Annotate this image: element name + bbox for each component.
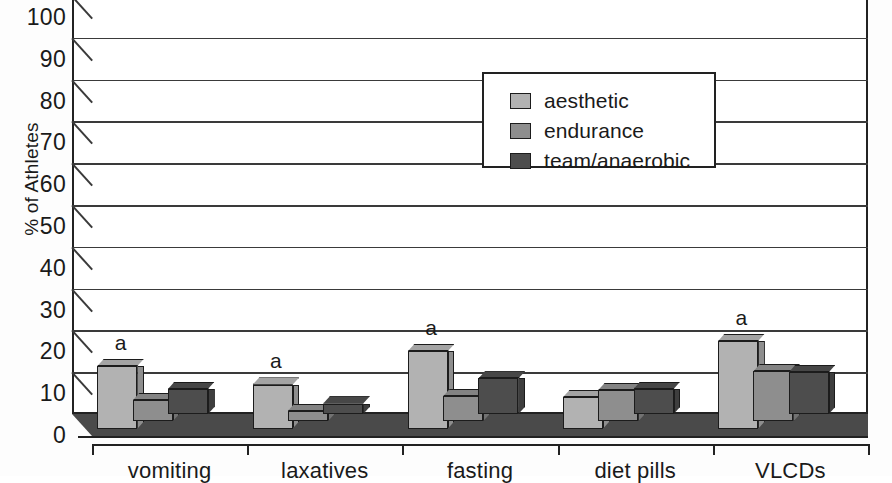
- bar-front-face: [718, 341, 758, 429]
- bar-front-face: [634, 389, 674, 414]
- bar: [753, 371, 793, 421]
- annotation-label: a: [726, 307, 756, 328]
- bar: [168, 389, 208, 414]
- x-axis-tick-mark: [558, 444, 560, 455]
- bar: [253, 385, 293, 429]
- bar-front-face: [288, 411, 328, 421]
- legend-item[interactable]: endurance: [510, 120, 644, 141]
- y-axis-tick-mark: [78, 436, 93, 438]
- plot-floor-front-edge: [92, 436, 868, 438]
- bar-top-face: [253, 377, 300, 384]
- bar-top-face: [718, 334, 765, 341]
- bar-top-face: [478, 371, 525, 378]
- annotation-label: a: [261, 350, 291, 371]
- legend-swatch-icon: [510, 153, 531, 169]
- y-axis-tick-label: 50: [8, 215, 66, 238]
- y-axis-tick-label: 40: [8, 257, 66, 280]
- annotation-label: a: [106, 332, 136, 353]
- bar-top-face: [408, 344, 455, 351]
- bar-front-face: [598, 390, 638, 421]
- bar-top-face: [789, 365, 836, 372]
- bar: [288, 411, 328, 421]
- bar-front-face: [97, 366, 137, 429]
- bar-top-face: [168, 382, 215, 389]
- bar: [408, 351, 448, 428]
- bar-front-face: [478, 378, 518, 414]
- bar: [323, 404, 363, 414]
- bar-front-face: [133, 400, 173, 421]
- bar-front-face: [253, 385, 293, 429]
- x-axis-tick-label: vomiting: [92, 460, 247, 482]
- x-axis-tick-label: fasting: [402, 460, 557, 482]
- gridline: [72, 289, 868, 291]
- bar-front-face: [408, 351, 448, 428]
- bar: [598, 390, 638, 421]
- bar: [789, 372, 829, 414]
- x-axis-tick-mark: [713, 444, 715, 455]
- gridline: [72, 247, 868, 249]
- y-axis-tick-label: 20: [8, 340, 66, 363]
- x-axis-tick-mark: [402, 444, 404, 455]
- legend-item-label: endurance: [544, 120, 644, 141]
- bar-front-face: [168, 389, 208, 414]
- bar: [634, 389, 674, 414]
- x-axis-tick-mark: [868, 444, 870, 455]
- y-axis-tick-label: 80: [8, 90, 66, 113]
- x-axis-tick-mark: [247, 444, 249, 455]
- gridline: [72, 80, 868, 82]
- x-axis-tick-label: diet pills: [558, 460, 713, 482]
- y-axis-tick-label: 30: [8, 299, 66, 322]
- x-axis-line: [92, 444, 868, 446]
- bar: [478, 378, 518, 414]
- legend-item[interactable]: aesthetic: [510, 90, 629, 111]
- bar-front-face: [563, 397, 603, 428]
- bar-front-face: [789, 372, 829, 414]
- annotation-label: a: [416, 317, 446, 338]
- bar-front-face: [443, 396, 483, 421]
- legend-item-label: team/anaerobic: [544, 150, 690, 171]
- gridline: [72, 205, 868, 207]
- y-axis-tick-label: 60: [8, 173, 66, 196]
- gridline: [72, 121, 868, 123]
- legend-swatch-icon: [510, 123, 531, 139]
- bar-top-face: [634, 382, 681, 389]
- bar-top-face: [97, 359, 144, 366]
- y-axis-tick-labels: 0102030405060708090100: [0, 0, 66, 476]
- legend-item-label: aesthetic: [544, 90, 629, 111]
- bar-front-face: [753, 371, 793, 421]
- bar-side-face: [829, 372, 836, 414]
- x-axis-tick-label: VLCDs: [713, 460, 868, 482]
- bar: [133, 400, 173, 421]
- gridline: [72, 163, 868, 165]
- bar: [443, 396, 483, 421]
- bar-top-face: [323, 396, 370, 403]
- bar: [563, 397, 603, 428]
- legend-swatch-icon: [510, 93, 531, 109]
- y-axis-tick-label: 0: [8, 424, 66, 447]
- y-axis-tick-label: 70: [8, 131, 66, 154]
- gridline: [72, 38, 868, 40]
- y-axis-tick-label: 90: [8, 48, 66, 71]
- bar: [718, 341, 758, 429]
- y-axis-tick-label: 100: [8, 6, 66, 29]
- gridline: [72, 330, 868, 332]
- y-axis-tick-label: 10: [8, 382, 66, 405]
- bar-front-face: [323, 404, 363, 414]
- legend-item[interactable]: team/anaerobic: [510, 150, 690, 171]
- chart-legend: aestheticenduranceteam/anaerobic: [482, 72, 716, 168]
- x-axis-tick-label: laxatives: [247, 460, 402, 482]
- x-axis-tick-mark: [92, 444, 94, 455]
- bar: [97, 366, 137, 429]
